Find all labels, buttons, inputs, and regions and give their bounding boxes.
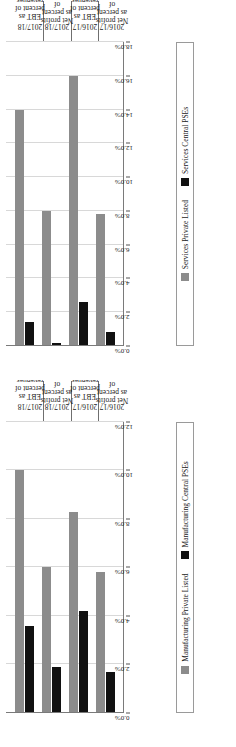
legend-label: Manufacturing Private Listed: [181, 573, 190, 661]
manufacturing-chart-rotation-wrapper: 2017/18EBT as percent of revenues2017/18…: [0, 380, 236, 747]
tick-label: 2.0%: [115, 665, 149, 673]
bar-group: [65, 422, 92, 713]
tick-label: 14.0%: [115, 110, 149, 118]
tick-label: 16.0%: [115, 76, 149, 84]
bar-group: [11, 422, 38, 713]
bar-pse: [25, 626, 34, 713]
tick-label: 10.0%: [115, 178, 149, 186]
manufacturing-category-labels: 2017/18EBT as percent of revenues2017/18…: [12, 381, 130, 421]
tick-label: 0.0%: [115, 347, 149, 355]
bar-pse: [25, 322, 34, 346]
bar-listed: [15, 110, 24, 346]
chart-page: 2017/18EBT as percent of revenues2017/18…: [0, 0, 236, 747]
tick-label: 18.0%: [115, 43, 149, 51]
manufacturing-y-axis-line: [6, 712, 124, 713]
tick-label: 6.0%: [115, 568, 149, 576]
axis-tick: 12.0%: [126, 414, 140, 431]
tick-label: 2.0%: [115, 313, 149, 321]
category-cell: 2016/17Net profits as percent of revenue…: [99, 381, 125, 421]
bar-pse: [52, 667, 61, 713]
category-measure: Net profits as percent of revenues: [95, 0, 129, 24]
services-axis-ticks: 0.0%2.0%4.0%6.0%8.0%10.0%12.0%14.0%16.0%…: [126, 42, 166, 346]
bar-group: [11, 42, 38, 346]
services-legend: Services Private Listed Services Central…: [176, 42, 194, 346]
category-measure: Net profits as percent of revenues: [95, 380, 129, 404]
axis-tick: 2.0%: [126, 656, 140, 673]
services-chart: 2017/18EBT as percent of revenues2017/18…: [0, 0, 236, 380]
legend-item-services-private-listed: Services Private Listed: [181, 200, 190, 281]
axis-tick: 0.0%: [126, 338, 140, 355]
square-swatch-icon: [181, 666, 189, 674]
axis-tick: 8.0%: [126, 202, 140, 219]
legend-item-manufacturing-central-pses: Manufacturing Central PSEs: [181, 461, 190, 559]
legend-label: Services Private Listed: [181, 200, 190, 269]
legend-item-manufacturing-private-listed: Manufacturing Private Listed: [181, 573, 190, 673]
legend-item-services-central-pses: Services Central PSEs: [181, 107, 190, 186]
tick-label: 6.0%: [115, 245, 149, 253]
services-chart-rotation-wrapper: 2017/18EBT as percent of revenues2017/18…: [0, 0, 236, 380]
bar-pse: [106, 672, 115, 713]
axis-tick: 10.0%: [126, 169, 140, 186]
services-y-axis-line: [6, 345, 124, 346]
services-x-axis-line: [123, 42, 124, 346]
axis-tick: 0.0%: [126, 705, 140, 722]
axis-tick: 10.0%: [126, 462, 140, 479]
bar-listed: [69, 76, 78, 346]
manufacturing-bar-rows: [6, 422, 124, 713]
axis-tick: 18.0%: [126, 34, 140, 51]
square-swatch-icon: [181, 178, 189, 186]
services-chart-slot: 2017/18EBT as percent of revenues2017/18…: [0, 0, 236, 380]
bar-listed: [15, 471, 24, 714]
square-swatch-icon: [181, 273, 189, 281]
bar-listed: [96, 214, 105, 346]
tick-label: 4.0%: [115, 279, 149, 287]
axis-tick: 2.0%: [126, 304, 140, 321]
axis-tick: 4.0%: [126, 270, 140, 287]
manufacturing-chart-slot: 2017/18EBT as percent of revenues2017/18…: [0, 380, 236, 747]
axis-tick: 4.0%: [126, 608, 140, 625]
legend-label: Manufacturing Central PSEs: [181, 461, 190, 547]
tick-label: 12.0%: [115, 144, 149, 152]
axis-tick: 6.0%: [126, 559, 140, 576]
category-year: 2017/18: [18, 22, 43, 31]
axis-tick: 6.0%: [126, 236, 140, 253]
bar-group: [92, 42, 119, 346]
bar-group: [38, 42, 65, 346]
tick-label: 8.0%: [115, 211, 149, 219]
tick-label: 10.0%: [115, 471, 149, 479]
manufacturing-axis-ticks: 0.0%2.0%4.0%6.0%8.0%10.0%12.0%: [126, 422, 166, 713]
category-year: 2017/18: [18, 402, 43, 411]
bar-group: [65, 42, 92, 346]
manufacturing-plot-area: 2017/18EBT as percent of revenues2017/18…: [6, 422, 124, 713]
tick-label: 4.0%: [115, 617, 149, 625]
services-plot-area: 2017/18EBT as percent of revenues2017/18…: [6, 42, 124, 346]
square-swatch-icon: [181, 551, 189, 559]
manufacturing-chart: 2017/18EBT as percent of revenues2017/18…: [0, 380, 236, 747]
bar-listed: [42, 568, 51, 714]
bar-listed: [69, 512, 78, 713]
bar-pse: [79, 302, 88, 346]
category-cell: 2016/17Net profits as percent of revenue…: [99, 1, 125, 41]
bar-listed: [96, 572, 105, 713]
axis-tick: 16.0%: [126, 67, 140, 84]
category-year: 2016/17: [72, 402, 97, 411]
tick-label: 0.0%: [115, 714, 149, 722]
manufacturing-legend: Manufacturing Private Listed Manufacturi…: [176, 422, 194, 713]
bar-group: [38, 422, 65, 713]
bar-listed: [42, 211, 51, 346]
tick-label: 12.0%: [115, 423, 149, 431]
legend-label: Services Central PSEs: [181, 107, 190, 174]
tick-label: 8.0%: [115, 520, 149, 528]
axis-tick: 12.0%: [126, 135, 140, 152]
category-year: 2016/17: [72, 22, 97, 31]
axis-tick: 14.0%: [126, 101, 140, 118]
bar-pse: [106, 333, 115, 347]
services-bar-rows: [6, 42, 124, 346]
axis-tick: 8.0%: [126, 511, 140, 528]
services-category-labels: 2017/18EBT as percent of revenues2017/18…: [12, 1, 130, 41]
bar-pse: [79, 611, 88, 713]
